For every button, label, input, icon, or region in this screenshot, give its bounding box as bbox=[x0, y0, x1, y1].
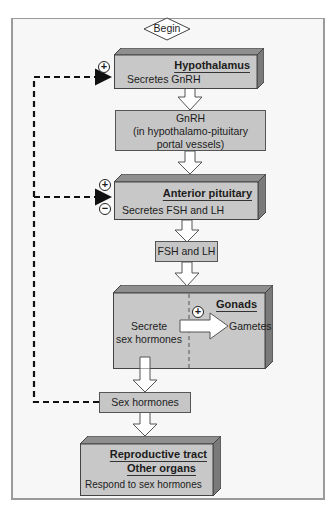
anterior-pituitary-text: Secretes FSH and LH bbox=[122, 204, 224, 216]
targets-title-2: Other organs bbox=[127, 462, 196, 474]
gonads-box: Gonads Secrete sex hormones Gametes + bbox=[113, 285, 273, 369]
arrow-hypothalamus-to-gnrh bbox=[178, 88, 202, 110]
fsh-lh-label: FSH and LH bbox=[158, 245, 216, 257]
gnrh-line2: (in hypothalamo-pituitary bbox=[116, 125, 265, 138]
gnrh-line3: portal vessels) bbox=[116, 138, 265, 151]
arrow-fsh-to-gonads bbox=[175, 262, 199, 286]
anterior-pituitary-box: Anterior pituitary Secretes FSH and LH bbox=[114, 174, 266, 220]
begin-label: Begin bbox=[150, 22, 184, 34]
arrow-pituitary-to-fsh bbox=[175, 220, 199, 242]
plus-sign-icon: + bbox=[192, 306, 204, 318]
hypothalamus-box: Hypothalamus Secretes GnRH bbox=[114, 48, 264, 89]
minus-sign-icon: − bbox=[99, 203, 111, 215]
fsh-lh-box: FSH and LH bbox=[155, 241, 218, 262]
gnrh-line1: GnRH bbox=[116, 112, 265, 125]
feedback-line-vertical bbox=[34, 77, 99, 402]
sex-hormones-label: Sex hormones bbox=[111, 396, 179, 408]
hypothalamus-text: Secretes GnRH bbox=[127, 73, 201, 85]
anterior-pituitary-title: Anterior pituitary bbox=[163, 187, 252, 199]
hypothalamus-title: Hypothalamus bbox=[174, 59, 250, 71]
targets-text: Respond to sex hormones bbox=[85, 479, 202, 490]
sex-hormones-box: Sex hormones bbox=[99, 392, 191, 413]
gnrh-box: GnRH (in hypothalamo-pituitary portal ve… bbox=[115, 110, 266, 151]
gonads-left-line1: Secrete bbox=[131, 320, 167, 332]
gametes-label: Gametes bbox=[229, 320, 272, 332]
plus-sign-icon: + bbox=[98, 61, 110, 73]
plus-sign-icon: + bbox=[99, 179, 111, 191]
targets-title-1: Reproductive tract bbox=[110, 448, 207, 460]
arrow-gnrh-to-pituitary bbox=[178, 151, 202, 174]
gonads-left-line2: sex hormones bbox=[116, 333, 182, 345]
arrow-sex-hormones-to-targets bbox=[133, 412, 157, 436]
gonads-title: Gonads bbox=[216, 298, 257, 310]
targets-box: Reproductive tract Other organs Respond … bbox=[80, 436, 221, 496]
